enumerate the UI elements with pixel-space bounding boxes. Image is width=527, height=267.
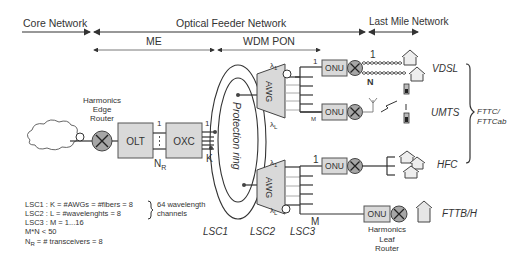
last-mile-label: Last Mile Network bbox=[369, 16, 449, 27]
optical-feeder-label: Optical Feeder Network bbox=[176, 17, 287, 29]
awg-top: AWG λ1 λL bbox=[236, 61, 300, 130]
legend-line-4: M*N < 50 bbox=[25, 227, 56, 236]
fttb-label: FTTB/H bbox=[442, 208, 478, 219]
svg-text:1: 1 bbox=[313, 57, 318, 66]
svg-text:N: N bbox=[367, 77, 374, 87]
svg-text:Harmonics: Harmonics bbox=[83, 96, 121, 105]
channels-line-1: 64 wavelength bbox=[157, 200, 205, 209]
header-section: Core Network Optical Feeder Network Last… bbox=[22, 16, 449, 50]
svg-text:ONU: ONU bbox=[325, 63, 344, 73]
svg-text:Edge: Edge bbox=[93, 105, 112, 114]
core-network-label: Core Network bbox=[23, 17, 88, 29]
svg-text:Harmonics: Harmonics bbox=[368, 225, 406, 234]
channels-line-2: channels bbox=[157, 209, 187, 218]
fttc-label: FTTC/ bbox=[477, 107, 500, 116]
lsc1-label: LSC1 bbox=[203, 226, 228, 237]
router-icon bbox=[348, 61, 363, 76]
onu-hfc: ONU bbox=[322, 158, 363, 174]
onu-umts: ONU bbox=[322, 104, 363, 120]
lsc3-label: LSC3 bbox=[290, 226, 315, 237]
svg-text:1: 1 bbox=[370, 49, 376, 60]
antenna-icon bbox=[362, 98, 377, 112]
mobile-phone-icon bbox=[404, 104, 409, 123]
svg-text:OLT: OLT bbox=[126, 136, 145, 147]
olt-oxc-links: 1 NR bbox=[153, 119, 166, 171]
nr-label: NR bbox=[154, 158, 166, 171]
legend-line-3: LSC3 : M = 1...16 bbox=[25, 218, 84, 227]
svg-text:Router: Router bbox=[375, 244, 399, 253]
leaf-router-icon bbox=[391, 206, 407, 222]
oxc-box: OXC bbox=[166, 123, 202, 158]
svg-text:1: 1 bbox=[205, 119, 210, 128]
building-icon bbox=[416, 201, 432, 222]
router-icon bbox=[348, 105, 363, 120]
svg-text:Leaf: Leaf bbox=[379, 235, 395, 244]
vdsl-twisted-pair: 1 N bbox=[362, 49, 406, 87]
vdsl-label: VDSL bbox=[432, 63, 458, 74]
fttc-brace bbox=[466, 64, 474, 163]
legend: LSC1 : K = #AWGs = #fibers = 8 LSC2 : L … bbox=[25, 200, 205, 247]
legend-line-2: LSC2 : L = #wavelenghts = 8 bbox=[25, 209, 121, 218]
svg-text:Router: Router bbox=[90, 114, 114, 123]
svg-text:ONU: ONU bbox=[368, 209, 387, 219]
network-architecture-diagram: Core Network Optical Feeder Network Last… bbox=[0, 0, 527, 267]
hfc-label: HFC bbox=[437, 159, 458, 170]
svg-text:K: K bbox=[206, 153, 213, 164]
fttcab-label: FTTCab bbox=[477, 117, 507, 126]
svg-text:λL: λL bbox=[270, 120, 278, 130]
router-icon bbox=[348, 159, 363, 174]
legend-line-1: LSC1 : K = #AWGs = #fibers = 8 bbox=[25, 200, 133, 209]
olt-box: OLT bbox=[118, 123, 153, 158]
mobile-phone-icon bbox=[404, 84, 409, 94]
core-cloud-icon bbox=[27, 120, 78, 150]
me-label: ME bbox=[146, 35, 162, 47]
router-icon bbox=[92, 131, 112, 151]
onu-vdsl: ONU bbox=[322, 60, 363, 76]
legend-brace bbox=[148, 201, 153, 219]
svg-text:ONU: ONU bbox=[325, 107, 344, 117]
coax-splitter bbox=[362, 157, 395, 175]
svg-text:M: M bbox=[311, 116, 316, 122]
svg-text:AWG: AWG bbox=[264, 177, 274, 198]
onu-fttb: ONU Harmonics Leaf Router bbox=[364, 206, 407, 253]
svg-text:Protection ring: Protection ring bbox=[231, 102, 243, 170]
svg-text:OXC: OXC bbox=[173, 136, 195, 147]
edge-router: Harmonics Edge Router bbox=[83, 96, 121, 151]
svg-text:1: 1 bbox=[313, 154, 319, 165]
legend-line-5: NR = # transceivers = 8 bbox=[25, 237, 103, 247]
svg-text:λ1: λ1 bbox=[270, 158, 278, 168]
lsc2-label: LSC2 bbox=[250, 226, 275, 237]
umts-label: UMTS bbox=[431, 107, 460, 118]
svg-text:AWG: AWG bbox=[264, 81, 274, 102]
svg-text:λ1: λ1 bbox=[270, 61, 278, 71]
wdm-pon-label: WDM PON bbox=[243, 35, 295, 47]
house-icon bbox=[402, 50, 418, 65]
svg-text:1: 1 bbox=[157, 119, 162, 128]
house-icon bbox=[409, 67, 425, 81]
wireless-signal-icon bbox=[381, 101, 397, 112]
svg-text:ONU: ONU bbox=[325, 161, 344, 171]
fiber-spool-icon bbox=[76, 133, 84, 141]
